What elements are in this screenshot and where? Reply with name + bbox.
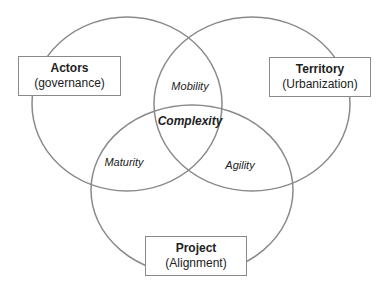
project-subtitle: (Alignment): [165, 256, 226, 271]
project-box: Project (Alignment): [145, 236, 247, 276]
mobility-label: Mobility: [171, 80, 208, 92]
actors-box: Actors (governance): [18, 56, 121, 96]
territory-box: Territory (Urbanization): [269, 57, 371, 97]
territory-subtitle: (Urbanization): [282, 77, 357, 92]
territory-title: Territory: [296, 62, 344, 77]
actors-subtitle: (governance): [34, 76, 105, 91]
project-title: Project: [176, 241, 217, 256]
complexity-label: Complexity: [158, 114, 223, 128]
maturity-label: Maturity: [104, 156, 143, 168]
agility-label: Agility: [225, 159, 254, 171]
actors-title: Actors: [50, 61, 88, 76]
